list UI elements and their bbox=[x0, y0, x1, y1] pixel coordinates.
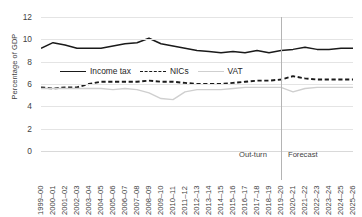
gridline bbox=[41, 129, 353, 130]
x-axis-tick-label: 2004–05 bbox=[97, 185, 105, 215]
legend-swatch-nics bbox=[140, 71, 166, 72]
x-axis-tick-label: 2018–19 bbox=[265, 185, 273, 215]
legend-item-income-tax: Income tax bbox=[60, 66, 131, 76]
y-axis-tick-labels: 024681012 bbox=[0, 17, 36, 151]
gridline bbox=[41, 106, 353, 107]
gridline bbox=[41, 62, 353, 63]
gridline bbox=[41, 84, 353, 85]
x-axis-tick-label: 2025–26 bbox=[349, 185, 357, 215]
series-line-income-tax bbox=[41, 38, 353, 53]
x-axis-tick-label: 2017–18 bbox=[253, 185, 261, 215]
x-axis-tick-label: 2022–23 bbox=[313, 185, 321, 215]
x-axis-tick-label: 2010–11 bbox=[169, 186, 177, 215]
y-axis-tick-label: 4 bbox=[27, 101, 32, 111]
gridline bbox=[41, 17, 353, 18]
chart-legend: Income tax NICs VAT bbox=[60, 66, 243, 76]
x-axis-tick-label: 2000–01 bbox=[49, 185, 57, 215]
x-axis-tick-label: 2011–12 bbox=[181, 186, 189, 215]
x-axis-tick-label: 2008–09 bbox=[145, 185, 153, 215]
x-axis-tick-label: 2013–14 bbox=[205, 185, 213, 215]
y-axis-tick-label: 12 bbox=[23, 12, 32, 22]
legend-label-income-tax: Income tax bbox=[90, 66, 131, 76]
legend-item-nics: NICs bbox=[140, 66, 189, 76]
legend-item-vat: VAT bbox=[198, 66, 243, 76]
x-axis-tick-label: 2006–07 bbox=[121, 185, 129, 215]
y-axis-tick-label: 8 bbox=[27, 57, 32, 67]
y-axis-tick-label: 10 bbox=[23, 34, 32, 44]
legend-label-nics: NICs bbox=[170, 66, 189, 76]
x-axis-tick-label: 2021–22 bbox=[301, 185, 309, 215]
x-axis-tick-label: 2007–08 bbox=[133, 185, 141, 215]
x-axis-tick-label: 2012–13 bbox=[193, 185, 201, 215]
y-axis-tick-label: 2 bbox=[27, 124, 32, 134]
gridline bbox=[41, 39, 353, 40]
x-axis-tick-label: 2019–20 bbox=[277, 185, 285, 215]
plot-area bbox=[41, 17, 353, 151]
series-line-nics bbox=[41, 76, 353, 88]
x-axis-tick-label: 2023–24 bbox=[325, 185, 333, 215]
x-axis-tick-label: 2020–21 bbox=[289, 185, 297, 215]
x-axis-tick-label: 2009–10 bbox=[157, 185, 165, 215]
x-axis-tick-label: 2003–04 bbox=[85, 185, 93, 215]
legend-swatch-income-tax bbox=[60, 71, 86, 72]
legend-label-vat: VAT bbox=[228, 66, 243, 76]
x-axis-tick-label: 2014–15 bbox=[217, 185, 225, 215]
legend-swatch-vat bbox=[198, 71, 224, 72]
y-axis-tick-label: 6 bbox=[27, 79, 32, 89]
x-axis-tick-label: 2002–03 bbox=[73, 185, 81, 215]
chart-container: Percentage of GDP 024681012 Out-turn For… bbox=[0, 0, 362, 217]
x-axis-tick-label: 2024–25 bbox=[337, 185, 345, 215]
x-axis-tick-label: 2001–02 bbox=[61, 185, 69, 215]
x-axis-tick-label: 1999–00 bbox=[37, 185, 45, 215]
x-axis-tick-label: 2015–16 bbox=[229, 185, 237, 215]
y-axis-tick-label: 0 bbox=[27, 146, 32, 156]
x-axis-tick-label: 2016–17 bbox=[241, 185, 249, 215]
x-axis-tick-labels: 1999–002000–012001–022002–032003–042004–… bbox=[41, 152, 353, 217]
x-axis-tick-label: 2005–06 bbox=[109, 185, 117, 215]
series-line-vat bbox=[41, 87, 353, 99]
